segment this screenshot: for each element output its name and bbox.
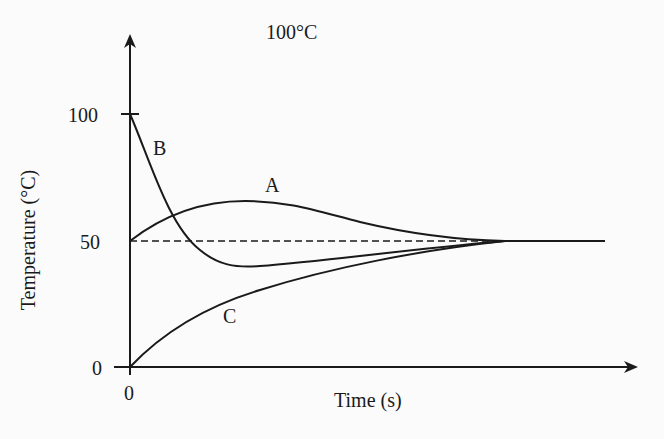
curve-a [130,201,605,241]
y-tick-label-100: 100 [68,105,98,125]
y-tick-label-0: 0 [92,358,102,378]
curve-b [130,114,505,267]
y-tick-label-50: 50 [80,232,100,252]
x-tick-label-0: 0 [124,383,134,403]
x-axis-label: Time (s) [334,390,402,410]
chart-title: 100°C [266,22,317,42]
curve-label-b: B [153,138,166,158]
curve-label-a: A [265,175,279,195]
curve-label-c: C [223,306,236,326]
y-axis-label: Temperature (°C) [17,170,40,310]
